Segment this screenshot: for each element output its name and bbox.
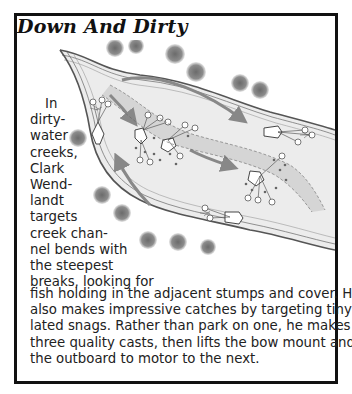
sidebar-title: Down And Dirty bbox=[17, 15, 188, 37]
text-line: water bbox=[30, 128, 114, 144]
text-line: fish holding in the adjacent stumps and … bbox=[30, 286, 330, 302]
text-line: creek chan- bbox=[30, 226, 114, 242]
text-line: dirty- bbox=[30, 112, 114, 128]
text-line: creeks, bbox=[30, 145, 114, 161]
text-line: Clark bbox=[30, 161, 114, 177]
text-line: Wend- bbox=[30, 177, 114, 193]
text-line: In bbox=[30, 96, 114, 112]
full-width-text: fish holding in the adjacent stumps and … bbox=[30, 286, 330, 367]
text-line: also makes impressive catches by targeti… bbox=[30, 302, 330, 318]
text-line: the outboard to motor to the next. bbox=[30, 351, 330, 367]
text-line: nel bends with bbox=[30, 242, 114, 258]
text-line: targets bbox=[30, 209, 114, 225]
text-line: three quality casts, then lifts the bow … bbox=[30, 335, 330, 351]
text-line: the steepest bbox=[30, 258, 114, 274]
text-line: landt bbox=[30, 193, 114, 209]
narrow-text-column: In dirty- water creeks, Clark Wend- land… bbox=[30, 96, 114, 290]
text-line: lated snags. Rather than park on one, he… bbox=[30, 318, 330, 334]
